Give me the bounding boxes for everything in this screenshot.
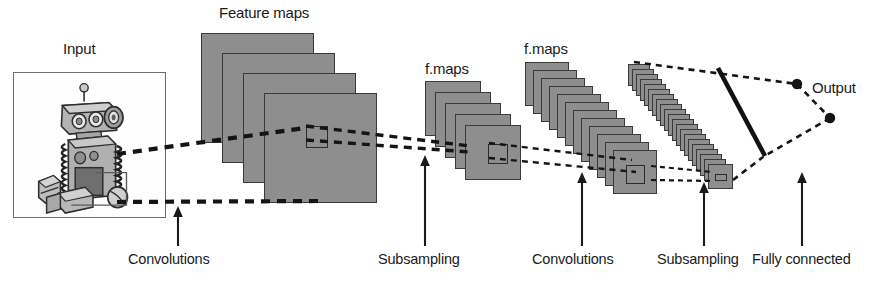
label-subsampling-1: Subsampling xyxy=(378,251,460,267)
label-feature-maps: Feature maps xyxy=(219,4,309,21)
label-fmaps-2: f.maps xyxy=(425,60,469,77)
arrow-subsampling-2 xyxy=(699,182,709,246)
label-input: Input xyxy=(63,40,95,57)
label-output: Output xyxy=(812,79,856,96)
arrow-convolutions-2 xyxy=(577,172,587,246)
fully-connected-solid-line xyxy=(718,68,765,156)
conn-input-bottom xyxy=(117,201,318,202)
label-subsampling-2: Subsampling xyxy=(657,251,739,267)
label-fully-connected: Fully connected xyxy=(752,251,851,267)
conn-fc-node2-to-base xyxy=(763,118,830,157)
cnn-architecture-figure: Input Feature maps f.maps f.maps Output … xyxy=(0,0,884,286)
conn-input-top xyxy=(117,128,305,154)
arrow-convolutions-1 xyxy=(173,206,183,246)
conn-fc-slab-to-base xyxy=(733,157,763,180)
label-convolutions-2: Convolutions xyxy=(532,251,613,267)
arrow-subsampling-1 xyxy=(420,155,430,246)
label-fmaps-3: f.maps xyxy=(524,40,568,57)
conn-fm2-to-fm3-top xyxy=(489,143,632,160)
output-node-1 xyxy=(792,79,802,89)
arrow-fully-connected xyxy=(797,172,807,246)
label-convolutions-1: Convolutions xyxy=(128,251,209,267)
conn-fm2-to-fm3-bottom xyxy=(489,158,636,172)
connection-lines-layer xyxy=(0,0,884,286)
conn-fm3-to-sub2-top xyxy=(651,166,712,172)
conn-fm1-to-fm2-top xyxy=(306,126,470,146)
output-node-2 xyxy=(825,113,835,123)
conn-fc-top-to-node1 xyxy=(634,62,797,84)
conn-fm3-to-sub2-bottom xyxy=(651,180,714,181)
